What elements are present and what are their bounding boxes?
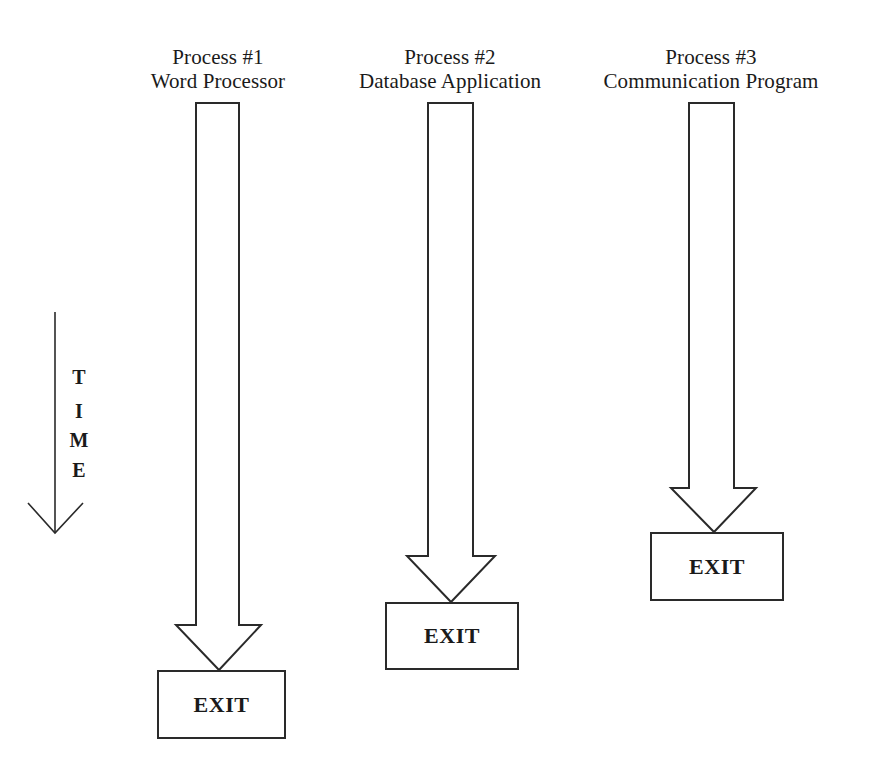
- process-3-header: Process #3 Communication Program: [604, 45, 819, 93]
- process-1-header: Process #1 Word Processor: [151, 45, 285, 93]
- process-1-exit-box: EXIT: [157, 670, 286, 739]
- process-3-lifetime-arrow: [671, 103, 756, 532]
- time-letter-m: M: [69, 429, 89, 451]
- process-2-exit-label: EXIT: [424, 623, 480, 649]
- process-2-exit-box: EXIT: [385, 602, 519, 670]
- time-letter-e: E: [69, 459, 89, 481]
- process-3-exit-box: EXIT: [650, 532, 784, 601]
- process-3-title: Process #3: [604, 45, 819, 69]
- process-1-exit-label: EXIT: [194, 692, 250, 718]
- process-3-subtitle: Communication Program: [604, 69, 819, 93]
- process-2-header: Process #2 Database Application: [359, 45, 541, 93]
- process-2-lifetime-arrow: [407, 103, 495, 602]
- time-arrow-icon: [28, 312, 83, 533]
- process-2-title: Process #2: [359, 45, 541, 69]
- time-letter-i: I: [69, 400, 89, 422]
- process-1-lifetime-arrow: [176, 103, 261, 670]
- process-2-subtitle: Database Application: [359, 69, 541, 93]
- process-1-title: Process #1: [151, 45, 285, 69]
- process-1-subtitle: Word Processor: [151, 69, 285, 93]
- process-3-exit-label: EXIT: [689, 554, 745, 580]
- time-letter-t: T: [69, 366, 89, 388]
